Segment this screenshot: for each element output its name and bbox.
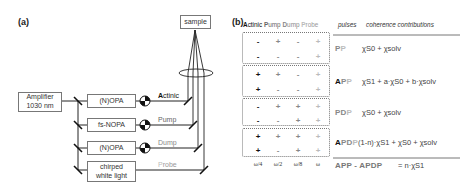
sign: - (291, 71, 305, 79)
sign: - (271, 86, 285, 94)
pulse-label-pp: PP (335, 44, 346, 53)
coherence-pp: χS0 + χsolv (362, 44, 401, 53)
beam-label-probe: Probe (158, 161, 177, 168)
coherence-app: χS1 + a·χS0 + b·χsolv (362, 77, 436, 86)
white-light-line2: white light (96, 172, 127, 181)
fs-nopa-box: fs-NOPA (87, 118, 136, 132)
sign: + (311, 38, 325, 46)
freq-dump: ω/8 (288, 161, 308, 167)
sign: + (291, 117, 305, 125)
result-value: = n·χS1 (398, 161, 424, 170)
sign: - (291, 53, 305, 61)
sign: - (271, 53, 285, 61)
nopa-box-dump: (N)OPA (87, 141, 136, 155)
sign: - (251, 117, 265, 125)
beam-label-pump: Pump (158, 116, 176, 123)
chopper-icon-pump (140, 120, 150, 130)
sign: - (271, 117, 285, 125)
coherence-header: coherence contributions (366, 21, 434, 28)
freq-pump: ω/2 (268, 161, 288, 167)
sign: + (251, 86, 265, 94)
sign: + (251, 133, 265, 141)
sign: + (271, 133, 285, 141)
pulses-header: pulses (338, 21, 356, 28)
sign: + (251, 71, 265, 79)
sign: - (251, 53, 265, 61)
nopa-box-actinic: (N)OPA (87, 94, 136, 108)
sign: - (251, 38, 265, 46)
freq-actinic: ω/4 (248, 161, 268, 167)
sign: + (251, 147, 265, 155)
white-light-box: chirpedwhite light (87, 161, 136, 182)
pulse-label-apdp: APDP (335, 138, 358, 147)
result-difference: APP - APDP (335, 161, 382, 170)
sign: - (251, 103, 265, 111)
sign: + (311, 133, 325, 141)
amplifier-wavelength: 1030 nm (26, 102, 53, 111)
table-header: Actinic Pump Dump Probe (243, 21, 318, 28)
beam-paths (0, 0, 465, 192)
sign: + (311, 147, 325, 155)
sign: + (271, 103, 285, 111)
pulse-label-app: APP (335, 77, 352, 86)
sign: - (291, 38, 305, 46)
sign: + (311, 117, 325, 125)
white-light-line1: chirped (96, 163, 127, 172)
beam-label-dump: Dump (158, 139, 177, 146)
chopper-icon-actinic (140, 96, 150, 106)
sign: - (291, 86, 305, 94)
sign: + (311, 71, 325, 79)
sign: + (291, 147, 305, 155)
freq-probe: ω (308, 161, 328, 167)
sign: + (291, 133, 305, 141)
beam-label-actinic: Actinic (158, 92, 179, 99)
pulse-label-pdp: PDP (335, 108, 352, 117)
sign: + (311, 53, 325, 61)
coherence-pdp: χS0 + χsolv (362, 108, 401, 117)
sign: + (271, 38, 285, 46)
chopper-icon-dump (140, 143, 150, 153)
sign: + (311, 103, 325, 111)
sign: + (311, 86, 325, 94)
sign: - (271, 147, 285, 155)
sign: + (291, 103, 305, 111)
amplifier-label: Amplifier (26, 93, 53, 102)
sign: + (271, 71, 285, 79)
amplifier-box: Amplifier1030 nm (18, 92, 62, 112)
coherence-apdp: (1-n)·χS1 + χS0 + χsolv (358, 138, 437, 147)
sample-box: sample (180, 15, 211, 29)
